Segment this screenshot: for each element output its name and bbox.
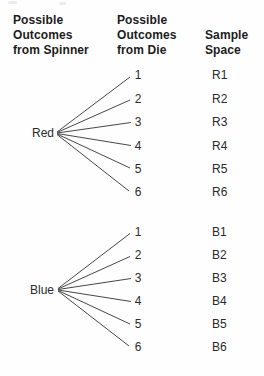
blue-node-label: Blue [8, 283, 54, 297]
red-die-outcome-4: 4 [128, 139, 148, 153]
blue-die-outcome-3: 3 [128, 271, 148, 285]
sample-space-r6: R6 [212, 185, 244, 199]
blue-die-outcome-1: 1 [128, 225, 148, 239]
sample-space-r3: R3 [212, 115, 244, 129]
red-die-outcome-1: 1 [128, 68, 148, 82]
blue-die-outcome-5: 5 [128, 317, 148, 331]
sample-space-r1: R1 [212, 68, 244, 82]
red-node-label: Red [8, 126, 54, 140]
red-die-outcome-2: 2 [128, 92, 148, 106]
sample-space-r5: R5 [212, 162, 244, 176]
blue-die-outcome-2: 2 [128, 248, 148, 262]
sample-space-b4: B4 [212, 294, 244, 308]
sample-space-b5: B5 [212, 317, 244, 331]
sample-space-b6: B6 [212, 340, 244, 354]
tree-diagram: Possible Outcomes from Spinner Possible … [0, 0, 264, 376]
sample-space-r4: R4 [212, 139, 244, 153]
blue-die-outcome-4: 4 [128, 294, 148, 308]
sample-space-b2: B2 [212, 248, 244, 262]
sample-space-r2: R2 [212, 92, 244, 106]
red-die-outcome-5: 5 [128, 162, 148, 176]
sample-space-b1: B1 [212, 225, 244, 239]
sample-space-b3: B3 [212, 271, 244, 285]
red-die-outcome-6: 6 [128, 185, 148, 199]
blue-die-outcome-6: 6 [128, 340, 148, 354]
red-die-outcome-3: 3 [128, 115, 148, 129]
